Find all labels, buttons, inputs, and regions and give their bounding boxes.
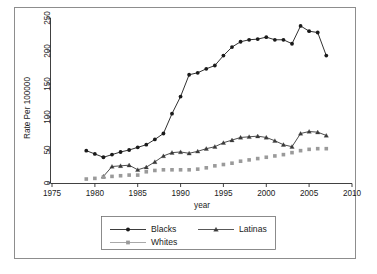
data-point: [110, 175, 114, 179]
data-point: [179, 95, 183, 99]
x-tick-label: 1980: [86, 189, 105, 198]
series-blacks: [84, 24, 328, 159]
data-point: [282, 153, 286, 157]
data-point: [213, 64, 217, 68]
data-point: [307, 29, 311, 33]
data-point: [119, 150, 123, 154]
data-point: [84, 149, 88, 153]
data-point: [273, 38, 277, 42]
x-tick-labels: 1975 1980 1985 1990 1995 2000 2005 2010: [43, 189, 362, 198]
series-latinas: [101, 129, 328, 178]
x-tick-label: 2000: [257, 189, 276, 198]
data-point: [127, 148, 131, 152]
data-point: [162, 132, 166, 136]
data-point: [230, 45, 234, 49]
y-tick-label: 150: [43, 77, 52, 91]
y-tick-marks: [47, 18, 51, 183]
data-point: [204, 166, 208, 170]
line-chart: 0 50 100 150 200 250 Rate Per 100000 197…: [0, 0, 377, 274]
data-point: [144, 143, 148, 147]
x-tick-marks: [52, 184, 352, 188]
data-point: [290, 151, 294, 155]
legend-label-latinas: Latinas: [239, 224, 267, 234]
data-point: [93, 152, 97, 156]
data-point: [324, 147, 328, 151]
data-point: [247, 158, 251, 162]
data-point: [204, 67, 208, 71]
data-point: [179, 168, 183, 172]
data-point: [264, 35, 268, 39]
data-point: [144, 165, 148, 169]
data-point: [239, 159, 243, 163]
data-point: [153, 138, 157, 142]
y-tick-label: 250: [43, 11, 52, 25]
data-point: [213, 164, 217, 168]
data-point: [110, 153, 114, 157]
y-tick-label: 0: [43, 180, 52, 185]
data-point: [102, 155, 106, 159]
data-point: [127, 173, 131, 177]
data-point: [299, 149, 303, 153]
data-point: [144, 170, 148, 174]
data-point: [196, 71, 200, 75]
data-point: [170, 112, 174, 116]
data-point: [281, 143, 285, 147]
x-axis-title: year: [194, 201, 210, 210]
data-point: [136, 145, 140, 149]
data-point: [136, 173, 140, 177]
data-point: [247, 38, 251, 42]
data-point: [324, 54, 328, 58]
data-point: [290, 42, 294, 46]
y-axis-title: Rate Per 100000: [23, 77, 32, 139]
data-point: [213, 145, 217, 149]
x-tick-label: 1975: [43, 189, 62, 198]
data-point: [256, 37, 260, 41]
data-point: [153, 169, 157, 173]
data-point: [187, 168, 191, 172]
data-point: [196, 167, 200, 171]
chart-figure: 0 50 100 150 200 250 Rate Per 100000 197…: [0, 0, 377, 274]
data-point: [307, 148, 311, 152]
legend-marker-blacks: [126, 228, 130, 232]
data-point: [282, 38, 286, 42]
data-point: [273, 154, 277, 158]
data-point: [264, 155, 268, 159]
data-point: [93, 177, 97, 181]
data-point: [162, 168, 166, 172]
y-tick-label: 200: [43, 44, 52, 58]
data-point: [187, 73, 191, 77]
data-point: [222, 54, 226, 58]
data-point: [119, 174, 123, 178]
y-tick-label: 50: [43, 145, 52, 155]
data-point: [256, 157, 260, 161]
x-tick-label: 2005: [300, 189, 319, 198]
x-tick-label: 2010: [343, 189, 362, 198]
legend-label-whites: Whites: [151, 237, 177, 247]
y-tick-label: 100: [43, 110, 52, 124]
x-tick-label: 1990: [171, 189, 190, 198]
data-point: [84, 177, 88, 181]
data-point: [316, 31, 320, 35]
data-point: [230, 161, 234, 165]
data-point: [102, 175, 106, 179]
x-tick-label: 1995: [214, 189, 233, 198]
data-point: [316, 147, 320, 151]
data-point: [239, 40, 243, 44]
x-tick-label: 1985: [129, 189, 148, 198]
series-layer: [84, 24, 328, 181]
data-point: [222, 163, 226, 167]
legend-marker-whites: [126, 241, 130, 245]
legend-label-blacks: Blacks: [151, 224, 176, 234]
data-point: [170, 168, 174, 172]
data-point: [299, 24, 303, 28]
